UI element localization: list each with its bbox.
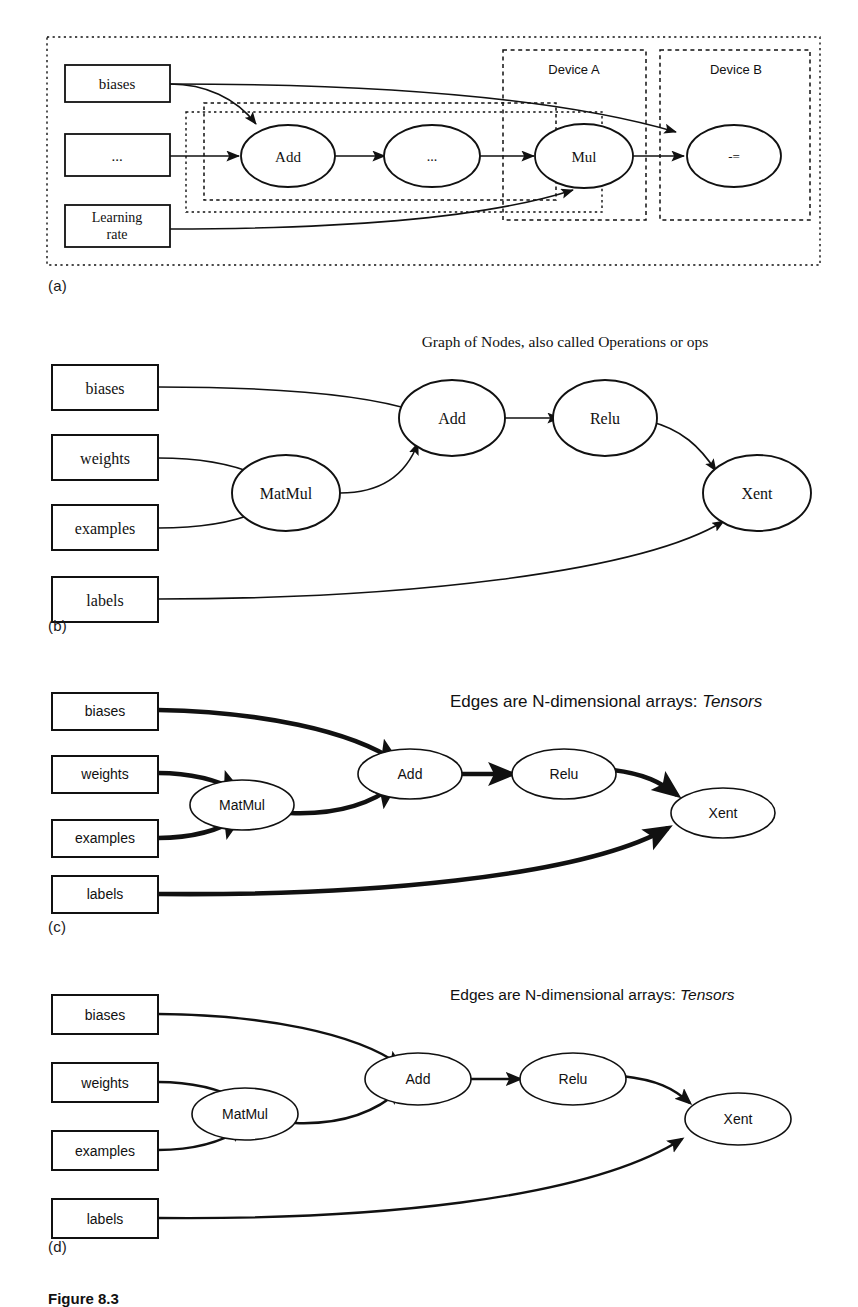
panel-a-input-label-learning-rate-line2: rate [107,227,128,242]
panel-b-op-label-add: Add [438,410,466,427]
panel-c-edge-labels-to-xent [158,828,668,894]
panel-b-diagram: Graph of Nodes, also called Operations o… [0,325,858,625]
panel-d-caption-plain: Edges are N-dimensional arrays: [450,986,680,1003]
panel-a-edge-learningrate-to-mul [170,190,573,229]
panel-c-input-label-biases: biases [85,703,125,719]
panel-d-op-label-xent: Xent [724,1111,753,1127]
panel-c-input-label-examples: examples [75,830,135,846]
panel-c: Edges are N-dimensional arrays: Tensors … [0,670,858,940]
panel-a-op-label-minus-equals: -= [728,149,740,164]
panel-c-caption-italic: Tensors [702,692,762,711]
panel-b-op-label-matmul: MatMul [260,485,313,502]
panel-d-diagram: Edges are N-dimensional arrays: Tensors … [0,955,858,1245]
panel-b-input-label-labels: labels [86,592,123,609]
panel-c-input-label-labels: labels [87,886,124,902]
panel-a-op-label-mul: Mul [571,149,596,165]
panel-d-caption-italic: Tensors [680,986,735,1003]
panel-label-b: (b) [48,617,67,634]
panel-b-edge-relu-to-xent [648,421,716,471]
panel-b-edge-labels-to-xent [158,521,724,599]
panel-b-input-label-weights: weights [80,450,130,468]
panel-b-edge-matmul-to-add [340,443,418,493]
panel-d-input-label-labels: labels [87,1211,124,1227]
panel-a: Device A Device B biases ... Learning ra… [0,0,858,300]
panel-b-op-label-relu: Relu [590,410,620,427]
panel-c-edge-relu-to-xent [613,770,677,795]
panel-a-input-label-biases: biases [99,76,136,92]
panel-b: Graph of Nodes, also called Operations o… [0,325,858,625]
panel-d-input-label-biases: biases [85,1007,125,1023]
panel-d-input-label-examples: examples [75,1143,135,1159]
panel-b-input-label-examples: examples [75,520,135,538]
panel-label-a: (a) [48,277,67,294]
panel-b-caption: Graph of Nodes, also called Operations o… [422,333,709,350]
panel-c-edge-biases-to-add [158,710,397,762]
panel-a-edge-biases-to-add [170,84,256,124]
panel-d-op-label-matmul: MatMul [222,1106,268,1122]
panel-c-op-label-relu: Relu [550,766,579,782]
panel-a-op-label-add: Add [275,149,301,165]
panel-d-caption: Edges are N-dimensional arrays: Tensors [450,986,735,1003]
panel-c-op-label-xent: Xent [709,805,738,821]
panel-b-input-label-biases: biases [85,380,124,397]
panel-d-edge-labels-to-xent [158,1139,682,1218]
panel-b-edge-biases-to-add [158,387,415,411]
panel-c-diagram: Edges are N-dimensional arrays: Tensors … [0,670,858,940]
panel-label-d: (d) [48,1238,67,1255]
figure-caption: Figure 8.3 [48,1290,119,1307]
panel-c-input-label-weights: weights [80,766,128,782]
panel-label-c: (c) [48,918,66,935]
device-a-label: Device A [548,62,600,77]
panel-a-input-label-ellipsis: ... [111,148,122,164]
panel-c-op-label-add: Add [398,766,423,782]
panel-d: Edges are N-dimensional arrays: Tensors … [0,955,858,1245]
panel-a-input-label-learning-rate-line1: Learning [92,210,143,225]
panel-d-edge-biases-to-add [158,1014,400,1065]
panel-b-op-label-xent: Xent [741,485,773,502]
panel-d-op-label-add: Add [406,1071,431,1087]
panel-c-caption-plain: Edges are N-dimensional arrays: [450,692,702,711]
panel-d-input-label-weights: weights [80,1075,128,1091]
panel-d-op-label-relu: Relu [559,1071,588,1087]
panel-d-edge-relu-to-xent [622,1076,690,1103]
panel-c-caption: Edges are N-dimensional arrays: Tensors [450,692,763,711]
panel-c-op-label-matmul: MatMul [219,797,265,813]
panel-a-diagram: Device A Device B biases ... Learning ra… [0,0,858,300]
panel-a-op-label-ellipsis: ... [427,149,438,164]
device-b-label: Device B [710,62,762,77]
